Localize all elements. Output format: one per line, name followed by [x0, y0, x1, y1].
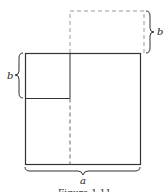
brace-right-icon: [146, 11, 154, 53]
label-b-left: b: [7, 70, 13, 81]
dashed-rectangle: [70, 11, 144, 53]
geometry-figure: b b a Figure 1.11: [0, 0, 168, 192]
main-rectangle: [26, 54, 141, 165]
label-b-top: b: [157, 26, 163, 37]
brace-left-icon: [15, 53, 23, 98]
figure-caption: Figure 1.11: [58, 188, 111, 192]
brace-bottom-icon: [25, 167, 140, 175]
label-a-bottom: a: [80, 175, 86, 186]
